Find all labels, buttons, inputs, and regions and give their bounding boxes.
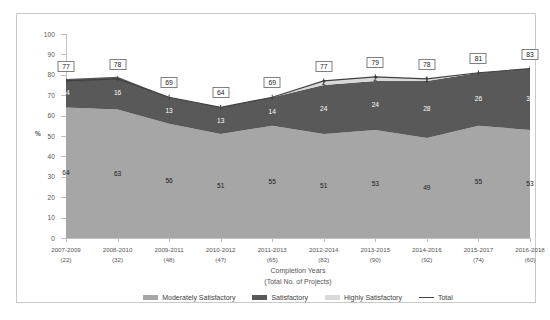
series-data-label: 55 [261, 178, 283, 185]
x-category-years: 2011-2013 [258, 246, 287, 253]
total-value-box: 78 [109, 59, 126, 70]
x-category-count: (82) [298, 255, 350, 265]
y-tick-label: 80 [17, 71, 55, 78]
series-data-label: 53 [364, 180, 386, 187]
y-tick-label: 30 [17, 173, 55, 180]
y-tick-label: 50 [17, 133, 55, 140]
x-axis-line [66, 238, 530, 239]
y-tick-label: 100 [17, 31, 55, 38]
y-tick-label: 0 [17, 235, 55, 242]
y-tick-label: 60 [17, 112, 55, 119]
y-tick-label: 20 [17, 194, 55, 201]
y-tick-label: 70 [17, 92, 55, 99]
total-value-box: 69 [264, 77, 281, 88]
total-value-box: 83 [522, 49, 539, 60]
x-tick-mark [272, 238, 273, 242]
x-tick-mark [66, 238, 67, 242]
legend-item[interactable]: Total [419, 294, 453, 301]
total-value-box: 77 [58, 61, 75, 72]
x-category-label: 2010-2012(47) [195, 245, 247, 264]
series-data-label: 1 [416, 76, 438, 83]
x-axis-title: Completion Years (Total No. of Projects) [66, 266, 530, 287]
series-data-label: 13 [210, 117, 232, 124]
x-tick-mark [530, 238, 531, 242]
x-axis-title-main: Completion Years [66, 266, 530, 277]
total-value-box: 81 [470, 53, 487, 64]
x-category-years: 2007-2009 [51, 246, 81, 253]
series-data-label: 49 [416, 184, 438, 191]
legend-label: Satisfactory [271, 294, 308, 301]
legend-item[interactable]: Satisfactory [252, 294, 308, 301]
x-tick-mark [221, 238, 222, 242]
series-data-label: 14 [261, 108, 283, 115]
series-data-label: 63 [107, 170, 129, 177]
series-data-label: 56 [158, 177, 180, 184]
series-data-label: 24 [364, 101, 386, 108]
y-tick-label: 10 [17, 214, 55, 221]
x-category-years: 2012-2014 [309, 246, 339, 253]
legend-color-swatch [252, 295, 267, 300]
x-category-label: 2008-2010(32) [92, 245, 144, 264]
series-data-label: 14 [55, 89, 77, 96]
x-category-label: 2015-2017(74) [452, 245, 504, 264]
series-data-label: 2 [364, 75, 386, 82]
x-category-count: (60) [504, 255, 550, 265]
legend-color-swatch [325, 295, 340, 300]
x-category-label: 2012-2014(82) [298, 245, 350, 264]
series-data-label: 16 [107, 89, 129, 96]
series-data-label: 26 [467, 95, 489, 102]
y-tick-label: 90 [17, 51, 55, 58]
x-category-count: (22) [40, 255, 92, 265]
x-tick-mark [375, 238, 376, 242]
x-category-years: 2010-2012 [206, 246, 236, 253]
series-data-label: 64 [55, 169, 77, 176]
chart-frame: % 1009080706050403020100 646356515551534… [16, 13, 536, 303]
x-category-label: 2016-2018(60) [504, 245, 550, 264]
x-category-count: (48) [143, 255, 195, 265]
x-category-count: (65) [246, 255, 298, 265]
total-value-box: 79 [367, 57, 384, 68]
series-data-label: 24 [313, 105, 335, 112]
plot-area [66, 34, 530, 238]
x-category-count: (74) [452, 255, 504, 265]
x-axis-title-sub: (Total No. of Projects) [66, 277, 530, 288]
x-category-count: (47) [195, 255, 247, 265]
x-category-years: 2013-2015 [361, 246, 391, 253]
x-category-years: 2009-2011 [155, 246, 184, 253]
total-value-box: 78 [418, 59, 435, 70]
y-tick-label: 40 [17, 153, 55, 160]
total-value-box: 77 [315, 61, 332, 72]
x-category-label: 2009-2011(48) [143, 245, 195, 264]
x-category-label: 2007-2009(22) [40, 245, 92, 264]
legend-label: Moderately Satisfactory [162, 294, 235, 301]
x-tick-mark [118, 238, 119, 242]
x-category-label: 2014-2016(92) [401, 245, 453, 264]
series-data-label: 28 [416, 105, 438, 112]
plot-svg [66, 34, 530, 238]
legend-line-marker [419, 297, 434, 298]
chart-legend: Moderately SatisfactorySatisfactoryHighl… [66, 290, 530, 304]
x-tick-mark [478, 238, 479, 242]
x-category-years: 2015-2017 [464, 246, 494, 253]
legend-item[interactable]: Moderately Satisfactory [143, 294, 235, 301]
total-value-box: 64 [212, 87, 229, 98]
stacked-area-chart: % 1009080706050403020100 646356515551534… [0, 0, 550, 320]
x-category-label: 2013-2015(90) [349, 245, 401, 264]
x-category-years: 2008-2010 [103, 246, 133, 253]
series-data-label: 53 [519, 180, 541, 187]
x-category-label: 2011-2013(65) [246, 245, 298, 264]
series-data-label: 51 [210, 182, 232, 189]
legend-label: Total [438, 294, 453, 301]
legend-label: Highly Satisfactory [344, 294, 402, 301]
x-tick-mark [324, 238, 325, 242]
x-category-count: (90) [349, 255, 401, 265]
legend-color-swatch [143, 295, 158, 300]
total-value-box: 69 [161, 77, 178, 88]
x-category-count: (32) [92, 255, 144, 265]
series-data-label: 55 [467, 178, 489, 185]
x-category-years: 2016-2018 [515, 246, 545, 253]
legend-item[interactable]: Highly Satisfactory [325, 294, 402, 301]
x-category-years: 2014-2016 [412, 246, 442, 253]
series-data-label: 13 [158, 107, 180, 114]
series-data-label: 30 [519, 95, 541, 102]
